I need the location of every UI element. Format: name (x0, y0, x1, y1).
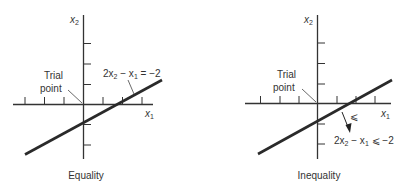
y-ticks (84, 44, 91, 146)
panel-inequality: ⩽ x2 x1 Trial point 2x2 − x1 ⩽ −2 Inequa… (245, 14, 394, 181)
equality-constraint-label: 2x2 − x1 = −2 (103, 68, 161, 80)
caption-equality: Equality (68, 170, 104, 181)
y-ticks (318, 43, 325, 144)
constraint-leader (128, 80, 134, 94)
trial-point-label-line1: Trial (277, 69, 296, 80)
trial-point-label-line2: point (273, 82, 295, 93)
trial-point-leader (68, 90, 82, 103)
x1-axis-label: x1 (144, 108, 154, 120)
trial-point-label-line1: Trial (44, 70, 63, 81)
direction-symbol: ⩽ (350, 111, 358, 122)
diagram-canvas: x2 x1 Trial point 2x2 − x1 = −2 Equality (0, 0, 401, 188)
trial-point-leader (302, 89, 316, 102)
x2-axis-label: x2 (303, 14, 313, 26)
x2-axis-label: x2 (69, 14, 79, 26)
x1-axis-label: x1 (380, 108, 390, 120)
panel-equality: x2 x1 Trial point 2x2 − x1 = −2 Equality (13, 14, 162, 181)
inequality-constraint-label: 2x2 − x1 ⩽ −2 (334, 135, 394, 147)
trial-point-label-line2: point (40, 83, 62, 94)
caption-inequality: Inequality (298, 170, 341, 181)
